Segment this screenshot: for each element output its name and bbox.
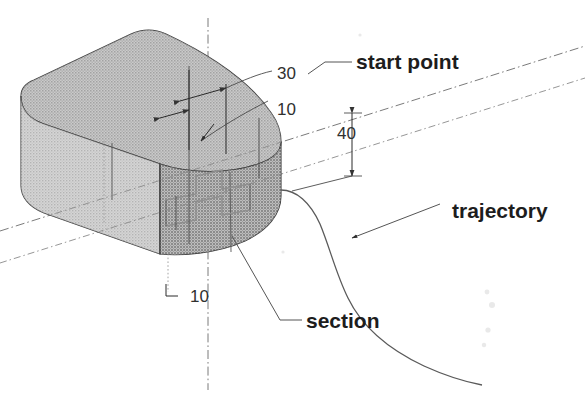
dim-label-40: 40 <box>337 124 356 143</box>
section-label: section <box>306 309 380 332</box>
trajectory-label: trajectory <box>452 199 548 222</box>
dim-label-10-top: 10 <box>277 100 296 119</box>
technical-diagram-svg: 30 10 start point 40 trajectory <box>0 0 585 398</box>
figure-root: 30 10 start point 40 trajectory <box>0 0 585 398</box>
scan-speck-6 <box>358 33 361 36</box>
start-point-label: start point <box>356 50 459 73</box>
scan-speck-2 <box>489 302 495 308</box>
dim-label-30: 30 <box>277 64 296 83</box>
scan-speck-3 <box>485 327 490 332</box>
dim-label-10-bottom: 10 <box>190 287 209 306</box>
scan-speck-1 <box>485 290 490 295</box>
scan-speck-4 <box>482 343 486 347</box>
scan-speck-5 <box>281 250 284 253</box>
